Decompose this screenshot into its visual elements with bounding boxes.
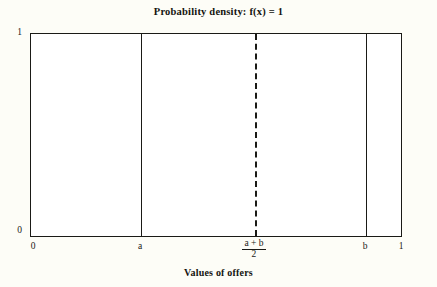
x-axis-tick-label-1: 1 — [381, 241, 421, 251]
y-axis-tick-label-1: 1 — [0, 27, 22, 37]
vertical-line-a — [141, 34, 142, 236]
vertical-line-b — [366, 34, 367, 236]
fraction-midpoint: a + b 2 — [242, 239, 265, 260]
vertical-line-midpoint-dashed — [255, 34, 257, 236]
plot-area — [30, 33, 402, 237]
y-axis-tick-label-0: 0 — [0, 225, 22, 235]
x-axis-tick-label-b: b — [345, 241, 385, 251]
x-axis-caption: Values of offers — [0, 267, 437, 278]
chart-title: Probability density: f(x) = 1 — [0, 6, 437, 17]
probability-density-figure: Probability density: f(x) = 1 1 0 0 a a … — [0, 0, 437, 287]
x-axis-tick-label-0: 0 — [13, 241, 53, 251]
x-axis-tick-label-midpoint: a + b 2 — [224, 239, 284, 260]
x-axis-tick-label-a: a — [120, 241, 160, 251]
fraction-denominator: 2 — [242, 250, 265, 260]
